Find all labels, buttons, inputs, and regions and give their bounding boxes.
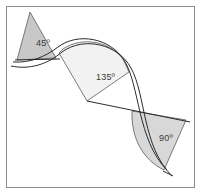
wedge-135-shape <box>59 42 129 101</box>
diagram-canvas: 45º 135º 90º <box>6 6 195 188</box>
wedge-90-label: 90º <box>159 133 173 143</box>
angle-diagram-svg: 45º 135º 90º <box>6 6 195 188</box>
diagram-frame: 45º 135º 90º <box>0 0 201 194</box>
wedge-45-label: 45º <box>36 38 50 48</box>
wedge-135-label: 135º <box>96 72 116 82</box>
